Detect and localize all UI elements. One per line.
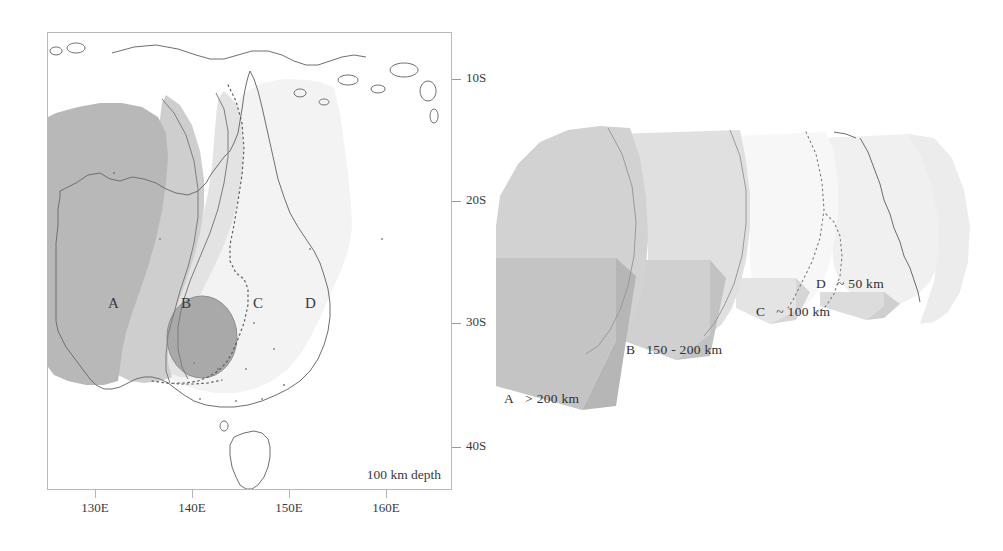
y-axis-tick-40s-label: 40S bbox=[466, 438, 486, 453]
y-tick-mark bbox=[452, 201, 461, 202]
slab-label-d: D~ 50 km bbox=[816, 276, 884, 292]
y-tick-mark bbox=[452, 79, 461, 80]
slab-b-zone: B bbox=[626, 342, 635, 357]
northern-island-1 bbox=[50, 47, 62, 55]
slab-c-zone: C bbox=[756, 304, 765, 319]
northern-island-7 bbox=[430, 109, 438, 123]
slab-d-zone: D bbox=[816, 276, 826, 291]
x-axis-tick-130e: 130E bbox=[65, 500, 125, 516]
x-tick-mark-150e bbox=[289, 490, 290, 498]
tasmania-outline bbox=[230, 431, 270, 489]
bass-strait-island bbox=[220, 421, 228, 431]
map-zone-label-a: A bbox=[108, 295, 119, 312]
y-axis-tick-10s: 10S bbox=[452, 70, 512, 86]
slab-d-thickness: ~ 50 km bbox=[837, 276, 884, 291]
y-axis-tick-20s-label: 20S bbox=[466, 192, 486, 207]
slab-label-a: A> 200 km bbox=[504, 391, 579, 407]
x-tick-mark-160e bbox=[386, 490, 387, 498]
figure-root: A B C D 100 km depth 10S 20S 30S 40S 130… bbox=[0, 0, 1003, 551]
x-axis-tick-150e: 150E bbox=[259, 500, 319, 516]
northern-island-3 bbox=[338, 75, 358, 85]
new-guinea-coastline bbox=[112, 45, 366, 65]
map-zone-label-b: B bbox=[181, 295, 192, 312]
northern-island-4 bbox=[371, 85, 385, 93]
slab-label-c: C~ 100 km bbox=[756, 304, 830, 320]
slab-label-b: B150 - 200 km bbox=[626, 342, 722, 358]
map-zone-label-c: C bbox=[253, 295, 264, 312]
y-tick-mark bbox=[452, 447, 461, 448]
map-frame: A B C D 100 km depth bbox=[47, 32, 452, 490]
slab-b-thickness: 150 - 200 km bbox=[646, 342, 722, 357]
x-tick-mark-140e bbox=[192, 490, 193, 498]
map-zone-label-d: D bbox=[305, 295, 316, 312]
slab-a-zone: A bbox=[504, 391, 514, 406]
x-axis-tick-140e: 140E bbox=[162, 500, 222, 516]
block-diagram-panel: A> 200 km B150 - 200 km C~ 100 km D~ 50 … bbox=[490, 110, 1003, 450]
map-panel: A B C D 100 km depth bbox=[47, 32, 452, 490]
northern-island-6 bbox=[420, 81, 436, 101]
x-axis-tick-160e: 160E bbox=[356, 500, 416, 516]
australia-map bbox=[48, 33, 452, 490]
slab-c-thickness: ~ 100 km bbox=[776, 304, 830, 319]
y-tick-mark bbox=[452, 323, 461, 324]
northern-island-2 bbox=[67, 43, 85, 53]
slab-a-thickness: > 200 km bbox=[525, 391, 579, 406]
x-tick-mark-130e bbox=[95, 490, 96, 498]
y-axis-tick-10s-label: 10S bbox=[466, 70, 486, 85]
map-depth-caption: 100 km depth bbox=[367, 467, 441, 483]
northern-island-5 bbox=[390, 63, 418, 77]
y-axis-tick-30s-label: 30S bbox=[466, 314, 486, 329]
